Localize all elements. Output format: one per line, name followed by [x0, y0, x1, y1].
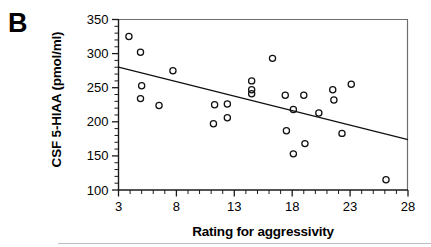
y-axis-tick-labels: 100150200250300350 — [87, 12, 109, 198]
data-points-group — [126, 33, 389, 182]
data-point — [282, 92, 288, 98]
y-tick-label: 250 — [87, 80, 109, 95]
data-point — [316, 110, 322, 116]
data-point — [139, 83, 145, 89]
x-axis-tick-labels: 3813182328 — [115, 199, 415, 214]
x-tick-label: 13 — [227, 199, 241, 214]
data-point — [269, 55, 275, 61]
x-tick-label: 3 — [115, 199, 122, 214]
y-tick-label: 100 — [87, 183, 109, 198]
data-point — [331, 97, 337, 103]
data-point — [283, 128, 289, 134]
data-point — [383, 177, 389, 183]
figure-panel-b: B CSF 5-HIAA (pmol/ml) Rating for aggres… — [0, 0, 431, 247]
y-axis-ticks — [112, 20, 119, 191]
x-tick-label: 28 — [401, 199, 415, 214]
x-tick-label: 23 — [343, 199, 357, 214]
data-point — [137, 96, 143, 102]
data-point — [301, 92, 307, 98]
data-point — [224, 101, 230, 107]
y-tick-label: 150 — [87, 148, 109, 163]
data-point — [212, 102, 218, 108]
data-point — [290, 151, 296, 157]
data-point — [330, 87, 336, 93]
data-point — [210, 121, 216, 127]
y-tick-label: 200 — [87, 114, 109, 129]
data-point — [249, 78, 255, 84]
data-point — [224, 115, 230, 121]
data-point — [290, 106, 296, 112]
scatter-plot: 100150200250300350 3813182328 — [0, 0, 431, 247]
y-tick-label: 300 — [87, 46, 109, 61]
x-axis-ticks — [119, 190, 409, 197]
data-point — [126, 33, 132, 39]
data-point — [302, 141, 308, 147]
data-point — [170, 68, 176, 74]
data-point — [137, 49, 143, 55]
x-tick-label: 18 — [285, 199, 299, 214]
data-point — [348, 81, 354, 87]
x-tick-label: 8 — [173, 199, 180, 214]
data-point — [156, 102, 162, 108]
data-point — [339, 130, 345, 136]
bottom-divider — [58, 243, 431, 244]
data-point — [249, 91, 255, 97]
y-tick-label: 350 — [87, 12, 109, 27]
